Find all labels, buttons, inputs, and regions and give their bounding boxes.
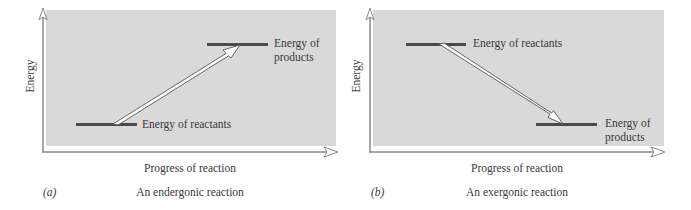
y-axis-label: Energy xyxy=(24,56,36,96)
endergonic-diagram xyxy=(0,0,345,210)
x-axis-arrow-icon xyxy=(42,147,338,157)
x-axis-label: Progress of reaction xyxy=(471,162,563,175)
products-label-line1: Energy of xyxy=(274,37,319,50)
reactants-label: Energy of reactants xyxy=(473,37,562,50)
panel-exergonic: Energy Energy of reactants Energy of pro… xyxy=(345,0,690,210)
panel-endergonic: Energy Energy of reactants Energy of pro… xyxy=(0,0,345,210)
panel-tag: (a) xyxy=(43,186,56,199)
panel-tag: (b) xyxy=(371,186,384,199)
y-axis-arrow-icon xyxy=(39,8,47,152)
panel-caption: An exergonic reaction xyxy=(466,186,568,199)
y-axis-arrow-icon xyxy=(366,8,374,152)
products-label-line2: products xyxy=(605,131,645,144)
products-label-line2: products xyxy=(274,51,314,64)
products-label-line1: Energy of xyxy=(605,117,650,130)
x-axis-arrow-icon xyxy=(369,147,665,157)
exergonic-diagram xyxy=(345,0,691,210)
reactants-label: Energy of reactants xyxy=(142,118,231,131)
x-axis-label: Progress of reaction xyxy=(144,162,236,175)
y-axis-label: Energy xyxy=(350,56,362,96)
panel-caption: An endergonic reaction xyxy=(136,186,244,199)
